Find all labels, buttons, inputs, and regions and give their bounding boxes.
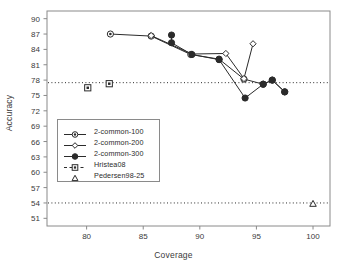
chart-figure: Accuracy Coverage 5154576063666972757881… [0,0,347,272]
data-point-center [109,33,112,36]
y-tick-label: 63 [18,152,40,161]
legend-item-2-common-200[interactable]: 2-common-200 [62,137,144,148]
triangle-key [62,170,88,181]
data-point [269,77,275,83]
y-tick-label: 84 [18,45,40,54]
y-tick-label: 90 [18,14,40,23]
series-2-common-200 [148,32,256,81]
y-tick-label: 66 [18,137,40,146]
series-line [110,34,284,92]
legend-key-marker-center [74,166,76,168]
legend-key-marker-center [74,133,76,135]
open-diamond-key [62,137,88,148]
legend-item-2-common-300[interactable]: 2-common-300 [62,148,144,159]
series-Hristea08 [85,81,113,91]
y-tick-label: 75 [18,91,40,100]
y-tick-label: 69 [18,122,40,131]
data-point-center [87,87,89,89]
x-tick-label: 100 [300,232,326,241]
y-tick-label: 60 [18,168,40,177]
y-tick-label: 78 [18,76,40,85]
y-tick-label: 72 [18,106,40,115]
legend: 2-common-1002-common-2002-common-300Hris… [57,119,160,182]
legend-item-pedersen98-25[interactable]: Pedersen98-25 [62,170,144,181]
data-point [189,51,195,57]
y-axis-title: Accuracy [4,83,14,143]
y-tick-label: 51 [18,214,40,223]
filled-circle-key [62,148,88,159]
data-point [250,41,256,47]
data-point [168,40,174,46]
data-point [216,57,222,63]
square-key [62,159,88,170]
legend-item-label: 2-common-300 [94,149,144,158]
legend-item-label: Pedersen98-25 [94,171,144,180]
legend-item-label: 2-common-100 [94,127,144,136]
data-point [168,32,174,38]
y-tick-label: 81 [18,60,40,69]
circle-dot-key [62,126,88,137]
data-point [242,95,248,101]
y-tick-label: 57 [18,183,40,192]
legend-item-2-common-100[interactable]: 2-common-100 [62,126,144,137]
x-tick-label: 90 [187,232,213,241]
x-tick-label: 80 [74,232,100,241]
y-tick-label: 54 [18,198,40,207]
series-line [151,36,253,79]
data-point-center [108,82,110,84]
x-tick-label: 85 [130,232,156,241]
plot-canvas [0,0,347,272]
x-axis-title: Coverage [0,250,347,260]
data-point [260,81,266,87]
legend-key-marker [72,175,78,180]
legend-item-hristea08[interactable]: Hristea08 [62,159,126,170]
data-point [282,89,288,95]
legend-item-label: Hristea08 [94,160,126,169]
legend-item-label: 2-common-200 [94,138,144,147]
y-tick-label: 87 [18,30,40,39]
x-tick-label: 95 [243,232,269,241]
